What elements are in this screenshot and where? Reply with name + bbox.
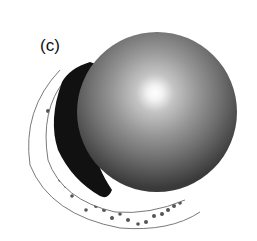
sphere-diagram [0, 0, 257, 241]
figure-panel: (c) [0, 0, 257, 241]
sphere [77, 32, 237, 192]
